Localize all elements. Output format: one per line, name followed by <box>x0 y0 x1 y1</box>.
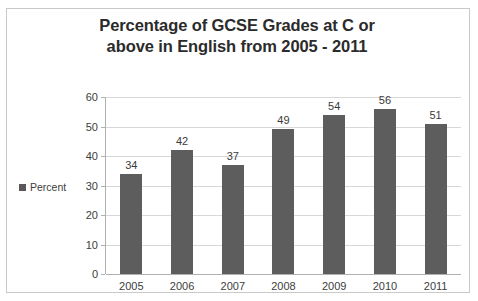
plot-area: 0102030405060 34200542200637200749200854… <box>105 97 461 274</box>
bar-2005[interactable] <box>120 174 142 274</box>
bar-value-2005: 34 <box>125 159 137 171</box>
x-tick-label-2006: 2006 <box>170 280 194 292</box>
x-tick-label-2005: 2005 <box>119 280 143 292</box>
bar-2011[interactable] <box>425 124 447 274</box>
bar-group-2009: 542009 <box>309 97 360 274</box>
x-tick-label-2009: 2009 <box>322 280 346 292</box>
x-tick-label-2011: 2011 <box>424 280 448 292</box>
y-tick-mark-30 <box>101 186 105 187</box>
y-tick-mark-60 <box>101 97 105 98</box>
bar-2006[interactable] <box>171 150 193 274</box>
y-tick-label-60: 60 <box>86 91 98 103</box>
y-tick-mark-40 <box>101 156 105 157</box>
y-tick-label-50: 50 <box>86 121 98 133</box>
bar-2008[interactable] <box>272 129 294 274</box>
bar-value-2009: 54 <box>328 100 340 112</box>
bar-value-2010: 56 <box>379 94 391 106</box>
bar-2010[interactable] <box>374 109 396 274</box>
chart-legend: Percent <box>19 181 66 193</box>
chart-title-line-1: Percentage of GCSE Grades at C or <box>47 15 427 36</box>
bar-group-2011: 512011 <box>410 97 461 274</box>
y-tick-label-20: 20 <box>86 209 98 221</box>
chart-container: Percentage of GCSE Grades at C or above … <box>6 8 470 293</box>
bars-layer: 3420054220063720074920085420095620105120… <box>106 97 461 274</box>
bar-group-2006: 422006 <box>157 97 208 274</box>
chart-title: Percentage of GCSE Grades at C or above … <box>47 15 427 57</box>
x-tick-label-2008: 2008 <box>271 280 295 292</box>
bar-group-2010: 562010 <box>360 97 411 274</box>
bar-value-2011: 51 <box>430 109 442 121</box>
bar-2009[interactable] <box>323 115 345 274</box>
bar-value-2006: 42 <box>176 135 188 147</box>
y-tick-label-30: 30 <box>86 180 98 192</box>
gridline-0 <box>106 274 461 275</box>
bar-2007[interactable] <box>222 165 244 274</box>
y-tick-mark-20 <box>101 215 105 216</box>
y-tick-label-0: 0 <box>92 268 98 280</box>
bar-group-2007: 372007 <box>207 97 258 274</box>
legend-label-percent: Percent <box>30 181 66 193</box>
bar-group-2005: 342005 <box>106 97 157 274</box>
chart-title-line-2: above in English from 2005 - 2011 <box>47 36 427 57</box>
y-tick-label-10: 10 <box>86 239 98 251</box>
x-tick-label-2007: 2007 <box>221 280 245 292</box>
y-tick-mark-50 <box>101 127 105 128</box>
y-tick-label-40: 40 <box>86 150 98 162</box>
x-tick-label-2010: 2010 <box>373 280 397 292</box>
bar-value-2007: 37 <box>227 150 239 162</box>
bar-group-2008: 492008 <box>258 97 309 274</box>
y-tick-mark-10 <box>101 245 105 246</box>
legend-swatch-percent-icon <box>19 184 26 191</box>
bar-value-2008: 49 <box>277 114 289 126</box>
y-tick-mark-0 <box>101 274 105 275</box>
